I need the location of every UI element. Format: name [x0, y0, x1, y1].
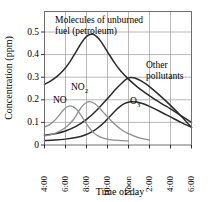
air-pollution-line-chart: 0 0.1 0.2 0.3 0.4 0.5 Concentration (ppm…: [0, 0, 209, 202]
y-axis-title: Concentration (ppm): [3, 36, 15, 120]
annotation-no-label: NO: [53, 95, 67, 105]
y-tick-marks: [41, 32, 45, 145]
y-tick-label-3: 0.3: [27, 72, 39, 82]
annotation-hydrocarbons-line2: fuel (petroleum): [55, 26, 117, 37]
x-tick-label-1: 6:00: [60, 176, 70, 193]
y-tick-label-2: 0.2: [27, 94, 39, 104]
y-tick-label-5: 0.5: [27, 27, 39, 37]
annotation-no2-subscript: 2: [85, 87, 88, 94]
x-tick-label-5: 2:00: [144, 176, 154, 193]
chart-figure: 0 0.1 0.2 0.3 0.4 0.5 Concentration (ppm…: [0, 0, 209, 202]
x-tick-label-7: 6:00: [186, 176, 196, 193]
annotation-other-pollutants-line2: pollutants: [146, 71, 184, 81]
x-tick-label-6: 4:00: [165, 176, 175, 193]
annotation-other-pollutants-line1: Other: [146, 60, 168, 70]
y-tick-label-1: 0.1: [27, 117, 39, 127]
annotation-o3-base: O: [130, 96, 137, 106]
annotation-no2-base: NO: [71, 82, 85, 92]
x-tick-marks: [45, 145, 192, 149]
x-tick-label-0: 4:00: [39, 176, 49, 193]
y-axis-tick-labels: 0 0.1 0.2 0.3 0.4 0.5: [27, 27, 39, 150]
y-tick-label-4: 0.4: [27, 49, 39, 59]
x-axis-title: Time of day: [96, 186, 145, 197]
annotation-o3-subscript: 3: [137, 101, 140, 108]
x-tick-label-2: 8:00: [81, 176, 91, 193]
annotation-no: NO: [53, 95, 67, 105]
annotation-hydrocarbons-line1: Molecules of unburned: [55, 15, 143, 25]
y-tick-label-0: 0: [34, 140, 39, 150]
